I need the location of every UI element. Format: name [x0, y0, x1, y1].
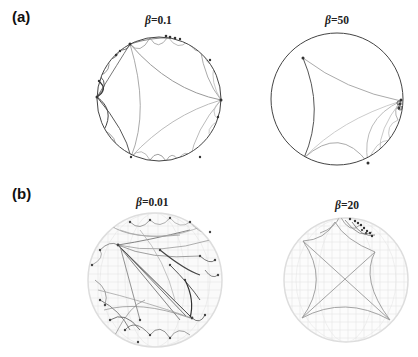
- sphere-beta-20: [284, 216, 408, 344]
- figure-canvas: [0, 0, 418, 357]
- disk-beta-50: [271, 33, 403, 165]
- disk-beta-0.1: [96, 35, 223, 161]
- sphere-beta-0.01: [88, 212, 222, 348]
